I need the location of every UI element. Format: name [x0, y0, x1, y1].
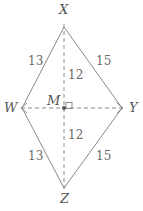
side-length-XY: 15	[96, 55, 111, 67]
vertex-label-X: X	[59, 3, 68, 16]
center-point-dot-icon	[62, 106, 66, 110]
geometry-figure: X Y Z W M 13 15 13 15 12 12	[0, 0, 143, 211]
geometry-canvas	[0, 0, 143, 211]
vertex-label-Z: Z	[60, 192, 69, 205]
side-length-WZ: 13	[28, 150, 43, 162]
vertex-label-Y: Y	[129, 101, 138, 114]
side-length-ZY: 15	[96, 150, 111, 162]
side-WZ	[22, 108, 64, 188]
side-ZY	[64, 108, 122, 188]
segment-length-MZ: 12	[68, 129, 83, 141]
vertex-label-W: W	[4, 101, 17, 114]
side-length-WX: 13	[28, 55, 43, 67]
segment-length-XM: 12	[68, 69, 83, 81]
vertex-label-M: M	[47, 94, 60, 107]
